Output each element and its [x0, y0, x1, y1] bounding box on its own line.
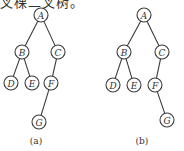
- node-label: C: [159, 48, 166, 58]
- node-B: B: [15, 45, 29, 59]
- node-A: A: [137, 8, 151, 22]
- node-D: D: [4, 76, 18, 90]
- node-D: D: [106, 78, 120, 92]
- node-label: D: [6, 79, 14, 89]
- node-B: B: [117, 45, 131, 59]
- node-A: A: [34, 8, 48, 22]
- edge-B-E: [126, 59, 132, 79]
- node-label: E: [28, 79, 36, 89]
- edge-C-F: [53, 59, 57, 76]
- node-label: F: [47, 79, 55, 89]
- binary-tree-diagram: ABCDEFG(a)ABCDEFG(b): [0, 0, 184, 151]
- edge-A-C: [147, 21, 159, 45]
- edge-B-D: [13, 59, 19, 77]
- node-C: C: [155, 45, 169, 59]
- node-E: E: [127, 78, 141, 92]
- node-label: B: [18, 48, 26, 58]
- node-G: G: [160, 113, 174, 127]
- node-F: F: [44, 76, 58, 90]
- node-label: F: [151, 81, 159, 91]
- node-label: A: [140, 11, 148, 21]
- edge-B-E: [24, 59, 30, 77]
- edge-F-G: [157, 92, 164, 114]
- node-G: G: [32, 115, 46, 129]
- edge-B-D: [115, 59, 122, 79]
- edge-A-C: [44, 21, 55, 45]
- node-E: E: [25, 76, 39, 90]
- tree-a: ABCDEFG(a): [4, 8, 65, 146]
- subfigure-label: (b): [136, 136, 149, 146]
- edge-A-B: [25, 21, 38, 46]
- node-C: C: [51, 45, 65, 59]
- node-label: B: [120, 48, 128, 58]
- node-label: G: [163, 116, 170, 126]
- tree-b: ABCDEFG(b): [106, 8, 174, 146]
- edge-F-G: [41, 90, 49, 116]
- edge-A-B: [127, 21, 140, 46]
- edge-C-F: [156, 59, 160, 78]
- node-label: G: [35, 118, 42, 128]
- node-label: D: [108, 81, 116, 91]
- subfigure-label: (a): [30, 136, 42, 146]
- node-label: A: [37, 11, 45, 21]
- node-F: F: [148, 78, 162, 92]
- node-label: E: [130, 81, 138, 91]
- node-label: C: [55, 48, 62, 58]
